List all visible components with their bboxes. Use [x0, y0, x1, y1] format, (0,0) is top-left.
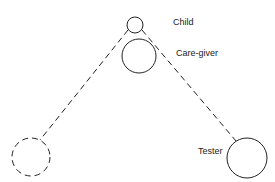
- care-giver-label: Care-giver: [176, 48, 218, 58]
- care-giver-node: [122, 39, 156, 73]
- tester-label: Tester: [198, 146, 223, 156]
- edge-child-to-unlabeled: [40, 30, 128, 140]
- child-label: Child: [173, 17, 194, 27]
- diagram-canvas: [0, 0, 275, 182]
- edge-child-to-tester: [142, 30, 236, 141]
- tester-node: [227, 138, 267, 178]
- child-node: [127, 17, 143, 33]
- unlabeled-dashed-node: [12, 138, 50, 176]
